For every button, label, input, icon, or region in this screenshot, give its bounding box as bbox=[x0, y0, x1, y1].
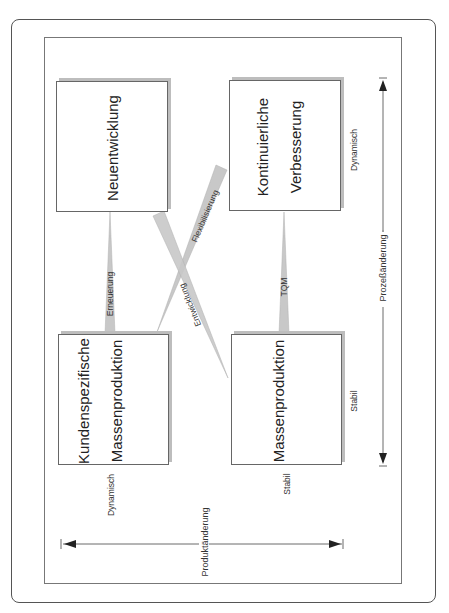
label-product-dynamisch: Dynamisch bbox=[105, 470, 117, 520]
box-kundenspezifische-massenproduktion: Kundenspezifische Massenproduktion bbox=[58, 334, 169, 465]
label-tqm: TQM bbox=[278, 267, 290, 307]
box-kontinuierliche-verbesserung: Kontinuierliche Verbesserung bbox=[229, 80, 341, 211]
label-process-dynamisch: Dynamisch bbox=[348, 125, 360, 175]
process-arrow-up-head bbox=[379, 80, 387, 91]
label-erneuerung: Erneuerung bbox=[104, 264, 116, 324]
label-prozessaenderung: Prozeßänderung bbox=[377, 228, 389, 308]
label-produktaenderung: Produktänderung bbox=[199, 502, 211, 582]
box-massenproduktion: Massenproduktion bbox=[231, 334, 342, 465]
box-neuentwicklung: Neuentwicklung bbox=[56, 81, 168, 212]
box-kontinuierliche-label-line1: Kontinuierliche bbox=[247, 82, 279, 213]
label-process-stabil: Stabil bbox=[348, 381, 360, 421]
box-kontinuierliche-label-line2: Verbesserung bbox=[280, 82, 312, 213]
product-arrow-left-head bbox=[64, 540, 76, 548]
product-arrow-right-head bbox=[329, 540, 341, 548]
box-kundenspezifische-label-line1: Kundenspezifische bbox=[68, 336, 100, 467]
process-arrow-down-head bbox=[379, 453, 387, 464]
label-product-stabil: Stabil bbox=[281, 464, 293, 504]
box-kundenspezifische-label-line2: Massenproduktion bbox=[101, 336, 133, 467]
box-massenproduktion-label: Massenproduktion bbox=[263, 336, 295, 467]
box-neuentwicklung-label: Neuentwicklung bbox=[97, 83, 129, 214]
